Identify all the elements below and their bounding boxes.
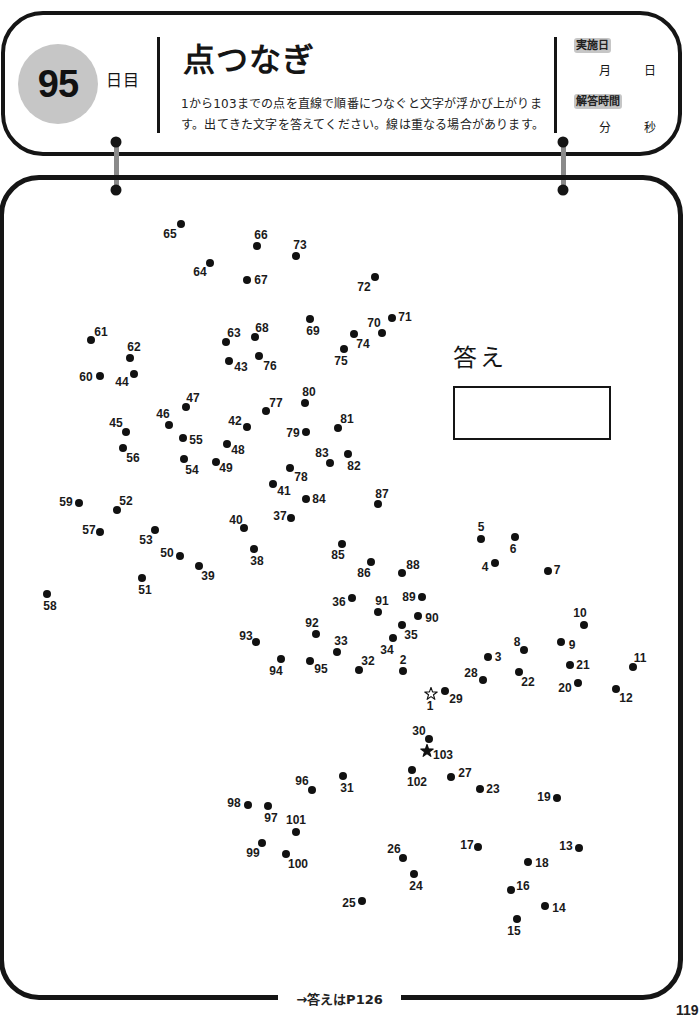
dot-29 [441, 687, 449, 695]
dot-label-13: 13 [559, 840, 572, 852]
dot-37 [287, 514, 295, 522]
dot-label-14: 14 [552, 902, 565, 914]
dot-label-103: 103 [433, 749, 453, 761]
dot-label-39: 39 [201, 570, 214, 582]
dot-33 [333, 648, 341, 656]
dot-54 [180, 455, 188, 463]
dot-label-56: 56 [126, 452, 139, 464]
dot-label-16: 16 [516, 880, 529, 892]
dot-95 [306, 657, 314, 665]
dot-label-74: 74 [356, 338, 369, 350]
dot-label-84: 84 [312, 493, 325, 505]
dot-4 [491, 559, 499, 567]
dot-19 [553, 794, 561, 802]
dot-13 [575, 844, 583, 852]
dot-65 [177, 220, 185, 228]
dot-label-18: 18 [535, 857, 548, 869]
dot-label-24: 24 [409, 880, 422, 892]
dot-label-71: 71 [398, 311, 411, 323]
dot-label-66: 66 [254, 229, 267, 241]
dot-label-85: 85 [331, 549, 344, 561]
dot-label-93: 93 [239, 630, 252, 642]
dot-label-80: 80 [302, 386, 315, 398]
dot-62 [126, 354, 134, 362]
dot-label-68: 68 [255, 322, 268, 334]
dot-label-43: 43 [234, 361, 247, 373]
dot-label-3: 3 [495, 651, 502, 663]
dot-label-36: 36 [332, 596, 345, 608]
dot-label-5: 5 [478, 521, 485, 533]
dot-93 [252, 638, 260, 646]
dot-label-34: 34 [380, 644, 393, 656]
dot-28 [479, 676, 487, 684]
dot-label-12: 12 [619, 692, 632, 704]
dot-23 [476, 785, 484, 793]
dot-34 [389, 634, 397, 642]
dot-label-98: 98 [227, 797, 240, 809]
dot-43 [225, 357, 233, 365]
dot-label-77: 77 [269, 397, 282, 409]
dot-label-61: 61 [94, 326, 107, 338]
dot-label-102: 102 [407, 776, 427, 788]
dot-label-33: 33 [334, 635, 347, 647]
dot-5 [477, 535, 485, 543]
dot-label-7: 7 [554, 564, 561, 576]
dot-94 [277, 655, 285, 663]
dot-label-59: 59 [59, 496, 72, 508]
dot-2 [399, 667, 407, 675]
dot-48 [223, 440, 231, 448]
dot-3 [484, 653, 492, 661]
dot-label-1: 1 [427, 700, 434, 712]
dot-79 [302, 428, 310, 436]
footer: →答えはP126 [278, 989, 401, 1007]
dot-label-101: 101 [286, 814, 306, 826]
dot-9 [557, 638, 565, 646]
dot-label-62: 62 [127, 341, 140, 353]
dot-label-88: 88 [406, 559, 419, 571]
dot-label-49: 49 [219, 462, 232, 474]
dot-91 [374, 608, 382, 616]
dot-102 [408, 766, 416, 774]
dot-84 [302, 495, 310, 503]
dot-label-46: 46 [156, 408, 169, 420]
dot-label-9: 9 [569, 639, 576, 651]
dot-64 [206, 259, 214, 267]
dot-label-42: 42 [228, 415, 241, 427]
dot-73 [292, 252, 300, 260]
dot-label-25: 25 [342, 897, 355, 909]
dot-82 [344, 450, 352, 458]
dot-41 [269, 480, 277, 488]
dot-46 [165, 421, 173, 429]
dot-6 [511, 533, 519, 541]
dot-50 [176, 552, 184, 560]
dot-25 [358, 897, 366, 905]
dot-label-8: 8 [514, 636, 521, 648]
dot-30 [425, 735, 433, 743]
dot-57 [96, 528, 104, 536]
dot-label-17: 17 [460, 839, 473, 851]
dot-38 [250, 545, 258, 553]
dot-label-15: 15 [507, 925, 520, 937]
dot-label-92: 92 [305, 617, 318, 629]
dot-label-37: 37 [273, 510, 286, 522]
dot-60 [96, 372, 104, 380]
dot-label-96: 96 [295, 775, 308, 787]
dot-label-60: 60 [79, 371, 92, 383]
dot-label-64: 64 [193, 266, 206, 278]
dot-90 [414, 612, 422, 620]
dot-label-95: 95 [314, 663, 327, 675]
dot-label-57: 57 [82, 524, 95, 536]
dot-label-10: 10 [573, 607, 586, 619]
dot-70 [378, 329, 386, 337]
dot-7 [544, 567, 552, 575]
dot-36 [348, 594, 356, 602]
dot-label-45: 45 [109, 417, 122, 429]
dot-14 [541, 902, 549, 910]
dot-label-23: 23 [486, 783, 499, 795]
page-number: 119 [676, 1002, 699, 1018]
dot-18 [524, 858, 532, 866]
dot-label-87: 87 [375, 488, 388, 500]
dot-75 [340, 345, 348, 353]
dot-27 [447, 773, 455, 781]
dot-86 [367, 558, 375, 566]
